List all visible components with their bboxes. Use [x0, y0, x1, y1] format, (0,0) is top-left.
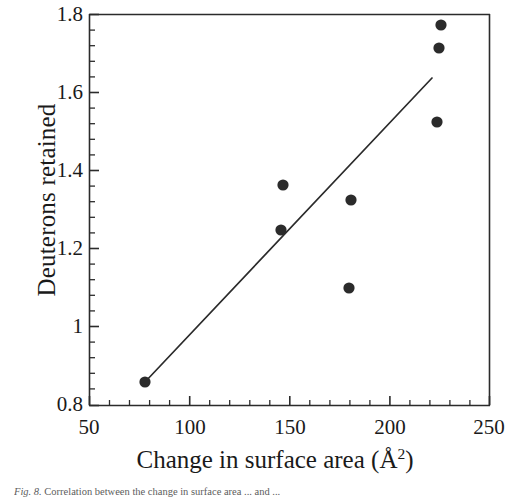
data-point [343, 282, 354, 293]
figure-caption-text: Correlation between the change in surfac… [44, 486, 280, 497]
data-point [277, 179, 288, 190]
x-axis-title-base: Change in surface area (Å [136, 446, 397, 473]
data-point [433, 42, 444, 53]
y-tick-label: 1.4 [37, 160, 83, 181]
x-tick-label: 200 [360, 417, 420, 438]
data-point-markers [139, 19, 446, 387]
x-axis-title-tail: ) [405, 446, 413, 473]
figure-number: Fig. 8. [14, 486, 42, 497]
axis-frame [89, 14, 490, 406]
x-tick-label: 50 [59, 417, 119, 438]
y-tick-label: 1.6 [37, 82, 83, 103]
data-point [345, 194, 356, 205]
y-tick-label: 0.8 [37, 394, 83, 415]
y-minor-ticks [90, 30, 96, 389]
x-axis-title: Change in surface area (Å2) [60, 446, 490, 474]
data-point [431, 116, 442, 127]
data-point [139, 376, 150, 387]
data-point [275, 224, 286, 235]
y-tick-label: 1.8 [37, 4, 83, 25]
x-tick-label: 250 [459, 417, 509, 438]
y-tick-label: 1 [37, 316, 83, 337]
trendline [145, 78, 432, 382]
y-tick-label: 1.2 [37, 238, 83, 259]
x-tick-label: 100 [160, 417, 220, 438]
x-axis-tick-labels: 50 100 150 200 250 [0, 417, 503, 447]
x-tick-label: 150 [260, 417, 320, 438]
data-point [435, 19, 446, 30]
y-major-ticks [90, 15, 100, 406]
figure-caption: Fig. 8. Correlation between the change i… [14, 486, 494, 497]
